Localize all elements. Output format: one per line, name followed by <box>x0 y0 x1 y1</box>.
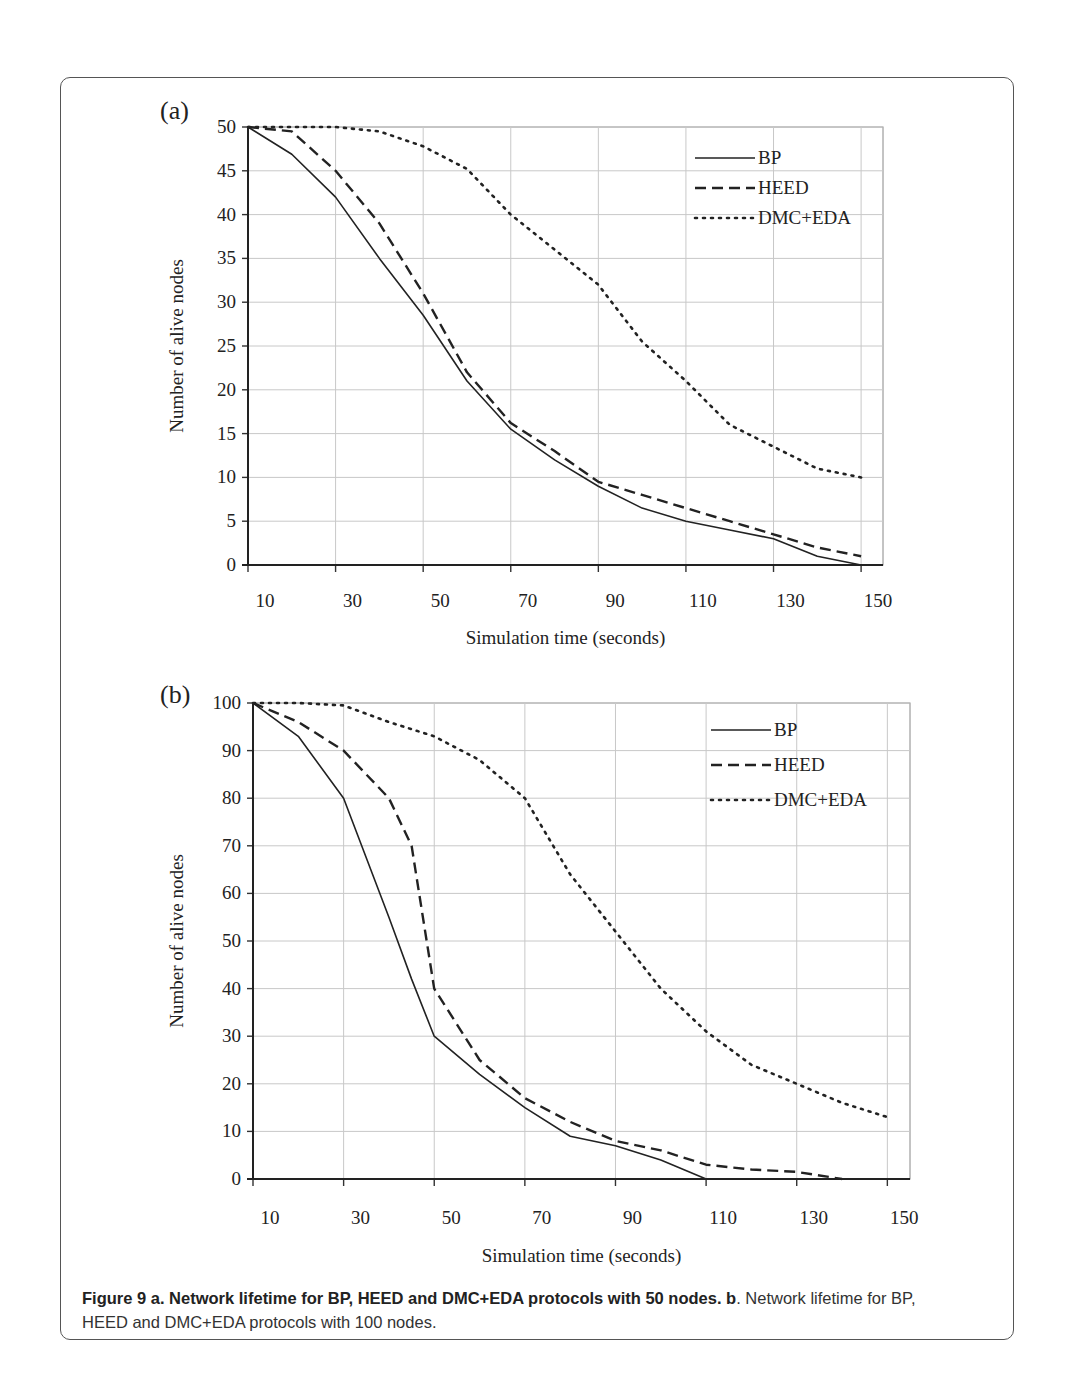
legend: BPHEEDDMC+EDA <box>695 147 851 228</box>
y-axis-title: Number of alive nodes <box>166 259 187 433</box>
x-tick-label: 70 <box>518 590 537 611</box>
y-tick-label: 90 <box>222 740 241 761</box>
x-tick-label: 90 <box>606 590 625 611</box>
x-tick-label: 10 <box>256 590 275 611</box>
legend-label: DMC+EDA <box>758 207 851 228</box>
x-tick-label: 110 <box>709 1207 737 1228</box>
legend-label: BP <box>774 719 797 740</box>
y-tick-label: 100 <box>213 692 242 713</box>
y-tick-label: 25 <box>217 335 236 356</box>
x-tick-label: 50 <box>431 590 450 611</box>
y-tick-label: 50 <box>222 930 241 951</box>
x-axis-title: Simulation time (seconds) <box>482 1245 681 1267</box>
y-tick-label: 0 <box>232 1168 242 1189</box>
y-axis-title: Number of alive nodes <box>166 854 187 1028</box>
chart-a-group: 051015202530354045501030507090110130150S… <box>166 116 892 649</box>
x-tick-label: 30 <box>351 1207 370 1228</box>
caption-bold: Figure 9 a. Network lifetime for BP, HEE… <box>82 1289 736 1307</box>
legend: BPHEEDDMC+EDA <box>711 719 867 810</box>
y-tick-label: 40 <box>217 204 236 225</box>
y-tick-label: 50 <box>217 116 236 137</box>
y-tick-label: 20 <box>217 379 236 400</box>
y-tick-label: 80 <box>222 787 241 808</box>
x-tick-label: 110 <box>689 590 717 611</box>
x-axis-title: Simulation time (seconds) <box>466 627 665 649</box>
x-tick-label: 50 <box>442 1207 461 1228</box>
figure-caption: Figure 9 a. Network lifetime for BP, HEE… <box>82 1286 962 1334</box>
legend-label: HEED <box>774 754 825 775</box>
y-tick-label: 30 <box>217 291 236 312</box>
x-tick-label: 150 <box>864 590 893 611</box>
y-tick-label: 35 <box>217 247 236 268</box>
y-tick-label: 40 <box>222 978 241 999</box>
y-tick-label: 0 <box>227 554 237 575</box>
y-tick-label: 10 <box>222 1120 241 1141</box>
x-tick-label: 90 <box>623 1207 642 1228</box>
chart-b-group: 0102030405060708090100103050709011013015… <box>166 692 919 1267</box>
y-tick-label: 30 <box>222 1025 241 1046</box>
chart-a: 051015202530354045501030507090110130150S… <box>0 0 1072 1392</box>
legend-label: BP <box>758 147 781 168</box>
x-tick-label: 130 <box>799 1207 828 1228</box>
y-tick-label: 10 <box>217 466 236 487</box>
y-tick-label: 15 <box>217 423 236 444</box>
y-tick-label: 70 <box>222 835 241 856</box>
x-tick-label: 30 <box>343 590 362 611</box>
y-tick-label: 20 <box>222 1073 241 1094</box>
y-tick-label: 60 <box>222 882 241 903</box>
x-tick-label: 150 <box>890 1207 919 1228</box>
x-tick-label: 10 <box>261 1207 280 1228</box>
x-tick-label: 70 <box>532 1207 551 1228</box>
y-tick-label: 5 <box>227 510 237 531</box>
legend-label: DMC+EDA <box>774 789 867 810</box>
legend-label: HEED <box>758 177 809 198</box>
x-tick-label: 130 <box>776 590 805 611</box>
y-tick-label: 45 <box>217 160 236 181</box>
